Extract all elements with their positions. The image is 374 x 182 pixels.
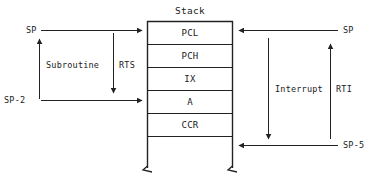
right-sp5-label: SP-5 [343,140,364,150]
stack-cell-label-ccr: CCR [181,120,198,130]
stack-cell-label-a: A [187,97,193,107]
stack-cell-label-pcl: PCL [181,28,198,38]
rti-label: RTI [336,84,352,94]
diagram-title: Stack [175,5,205,16]
left-sp2-label: SP-2 [4,95,25,105]
rts-label: RTS [119,60,135,70]
interrupt-label: Interrupt [275,84,323,94]
right-sp-label: SP [343,25,354,35]
left-sp-label: SP [26,25,37,35]
subroutine-label: Subroutine [46,60,99,70]
diagram-canvas: Stack PCL PCH IX A CCR SP SP-2 [0,0,374,182]
stack-cell-label-pch: PCH [181,51,198,61]
stack-cell-label-ix: IX [184,74,196,84]
stack-diagram: Stack PCL PCH IX A CCR SP SP-2 [0,0,374,182]
